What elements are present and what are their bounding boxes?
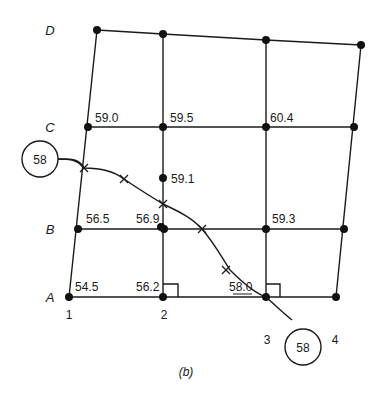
row-label-c: C xyxy=(45,120,55,135)
column-label-1: 1 xyxy=(66,308,73,322)
node-C1 xyxy=(84,123,92,131)
row-label-d: D xyxy=(45,23,54,38)
figure-caption: (b) xyxy=(179,365,194,379)
node-C4 xyxy=(350,123,358,131)
node-B3 xyxy=(262,225,270,233)
elevation-B2: 56.9 xyxy=(136,212,160,226)
node-C3 xyxy=(262,123,270,131)
node-D1 xyxy=(93,26,101,34)
contour-value-left: 58 xyxy=(33,153,47,167)
cross-mark-icon xyxy=(120,175,128,183)
grid-nodes xyxy=(65,26,365,301)
node-mid-2-BC xyxy=(159,174,167,182)
node-A1 xyxy=(65,293,73,301)
contour-line-start xyxy=(58,159,84,168)
node-B4 xyxy=(340,225,348,233)
elevation-C2: 59.5 xyxy=(170,111,194,125)
node-D3 xyxy=(262,36,270,44)
grid-line-1 xyxy=(69,30,97,297)
elevation-B3: 59.3 xyxy=(272,212,296,226)
row-label-a: A xyxy=(45,290,55,305)
elevation-C1: 59.0 xyxy=(95,111,119,125)
grid-lines xyxy=(69,30,361,297)
cross-mark-icon xyxy=(222,266,230,274)
column-label-2: 2 xyxy=(161,308,168,322)
node-B1 xyxy=(74,225,82,233)
elevation-A3: 58.0 xyxy=(229,280,253,294)
elevation-A2: 56.2 xyxy=(136,280,160,294)
elevation-C3: 60.4 xyxy=(270,111,294,125)
column-label-3: 3 xyxy=(264,333,271,347)
node-D2 xyxy=(159,30,167,38)
node-C2 xyxy=(159,123,167,131)
column-label-4: 4 xyxy=(332,333,339,347)
survey-grid-diagram: 58 58 D C B A 1 2 3 4 59. xyxy=(0,0,382,399)
elevation-A1: 54.5 xyxy=(75,280,99,294)
node-A2 xyxy=(159,293,167,301)
node-D4 xyxy=(357,41,365,49)
elevation-labels: 59.0 59.5 60.4 59.1 56.5 56.9 59.3 54.5 … xyxy=(75,111,296,294)
row-label-b: B xyxy=(46,222,55,237)
grid-line-4 xyxy=(336,45,361,297)
node-A4 xyxy=(332,293,340,301)
contour-value-right: 58 xyxy=(296,341,310,355)
node-A3 xyxy=(262,293,270,301)
elevation-mid-2-BC: 59.1 xyxy=(171,172,195,186)
grid-line-d xyxy=(97,30,361,45)
elevation-B1: 56.5 xyxy=(86,212,110,226)
node-B2 xyxy=(160,225,168,233)
